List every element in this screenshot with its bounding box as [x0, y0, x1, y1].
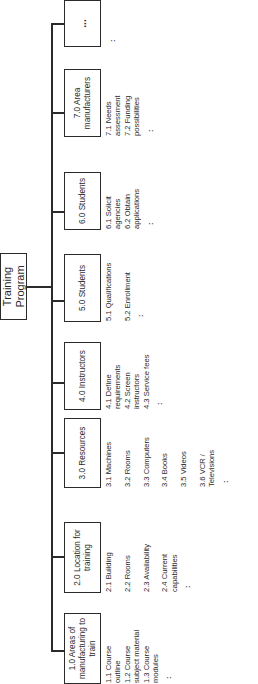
subitems-5-0: 5.1 Qualifications 5.2 Enrollment:: [104, 263, 146, 321]
subitem: 1.1 Course: [104, 630, 113, 683]
node-2-0: 2.0 Location fortraining: [64, 522, 101, 593]
root-connector: [27, 286, 52, 288]
subitems-7-0: 7.1 Needsassessment7.2 Fundingpossibilit…: [104, 95, 155, 136]
subitem: 5.1 Qualifications: [104, 263, 113, 321]
connector-more: [51, 23, 65, 25]
subitem: outline: [113, 630, 122, 683]
node-6-0: 6.0 Students: [64, 172, 101, 230]
connector-1-0: [51, 650, 65, 652]
continuation-dots: :: [221, 437, 230, 487]
subitems-4-0: 4.1 Definerequirements4.2 Screeninstruct…: [104, 355, 164, 409]
subitem: [151, 437, 160, 487]
subitem: 5.2 Enrollment: [123, 263, 132, 321]
continuation-dots: :: [146, 95, 155, 136]
subitems-3-0: 3.1 Machines 3.2 Rooms 3.3 Computers 3.4…: [104, 437, 230, 487]
subitem: 2.4 Current: [160, 544, 169, 592]
connector-2-0: [51, 556, 65, 558]
continuation-dots: :: [183, 544, 192, 592]
subitems-6-0: 6.1 Solicitagencies6.2 Obtainapplication…: [104, 189, 155, 229]
subitem: instructors: [132, 355, 141, 409]
node-4-0: 4.0 Instructors: [64, 342, 101, 410]
subitem: 3.5 Videos: [179, 437, 188, 487]
subitem: 2.2 Rooms: [123, 544, 132, 592]
node-label-line: manufacturers: [83, 77, 93, 129]
connector-4-0: [51, 382, 65, 384]
node-1-0: 1.0 Areas ofmanufacturing totrain: [64, 613, 101, 684]
subitem: applications: [132, 189, 141, 229]
subitem: 3.3 Computers: [142, 437, 151, 487]
subitem: subject material: [132, 630, 141, 683]
continuation-dots: :: [136, 263, 145, 321]
connector-3-0: [51, 452, 65, 454]
subitem: assessment: [113, 95, 122, 136]
subitem: 3.6 VCR /: [198, 437, 207, 487]
subitem: 7.2 Funding: [123, 95, 132, 136]
org-chart-diagram: Training Program 1.0 Areas ofmanufacturi…: [0, 0, 258, 684]
node-7-0: 7.0 Areamanufacturers: [64, 69, 101, 137]
subitem: requirements: [113, 355, 122, 409]
subitem: [132, 437, 141, 487]
connector-6-0: [51, 211, 65, 213]
subitem: [170, 437, 179, 487]
subitem: 4.2 Screen: [123, 355, 132, 409]
subitem: 2.3 Availability: [142, 544, 151, 592]
subitem: 4.1 Define: [104, 355, 113, 409]
subitem: 1.3 Course: [142, 630, 151, 683]
node-5-0: 5.0 Students: [64, 254, 101, 322]
node-label-line: 4.0 Instructors: [78, 350, 88, 402]
node-label-line: training: [83, 544, 93, 571]
node-more: ...: [64, 0, 101, 47]
node-label-line: train: [88, 641, 98, 657]
subitem: 6.1 Solicit: [104, 189, 113, 229]
subitem: [189, 437, 198, 487]
subitem: capabilities: [170, 544, 179, 592]
node-label-line: 6.0 Students: [78, 178, 88, 224]
root-node-training-program: Training Program: [0, 253, 27, 320]
continuation-dots: :: [108, 39, 117, 46]
node-label-line: manufacturing to: [78, 618, 88, 679]
subitem: [113, 263, 122, 321]
subitem: 3.1 Machines: [104, 437, 113, 487]
continuation-dots: :: [155, 355, 164, 409]
subitems-1-0: 1.1 Courseoutline1.2 Coursesubject mater…: [104, 630, 174, 683]
subitem: agencies: [113, 189, 122, 229]
subitem: 4.3 Service fees: [142, 355, 151, 409]
continuation-dots: :: [146, 189, 155, 229]
connector-5-0: [51, 300, 65, 302]
node-label-line: ...: [78, 19, 88, 27]
subitems-2-0: 2.1 Building 2.2 Rooms 2.3 Availability …: [104, 544, 193, 592]
subitems-more: :: [104, 39, 117, 46]
node-label-line: 1.0 Areas of: [68, 627, 78, 671]
subitem: [113, 544, 122, 592]
subitem: modules: [151, 630, 160, 683]
node-label-line: 5.0 Students: [78, 265, 88, 311]
node-label-line: 3.0 Resources: [78, 427, 88, 480]
subitem: 7.1 Needs: [104, 95, 113, 136]
subitem: 2.1 Building: [104, 544, 113, 592]
continuation-dots: :: [164, 630, 173, 683]
node-3-0: 3.0 Resources: [64, 418, 101, 488]
node-label-line: 2.0 Location for: [73, 529, 83, 585]
subitem: 3.2 Rooms: [123, 437, 132, 487]
subitem: 6.2 Obtain: [123, 189, 132, 229]
subitem: 1.2 Course: [123, 630, 132, 683]
subitem: possibilities: [132, 95, 141, 136]
subitem: [132, 544, 141, 592]
node-label-line: 7.0 Area: [73, 88, 83, 119]
subitem: 3.4 Books: [160, 437, 169, 487]
subitem: [113, 437, 122, 487]
subitem: Televisions: [207, 437, 216, 487]
root-title-line-2: Program: [14, 265, 27, 307]
root-title-line-1: Training: [1, 267, 14, 306]
connector-7-0: [51, 112, 65, 114]
subitem: [151, 544, 160, 592]
